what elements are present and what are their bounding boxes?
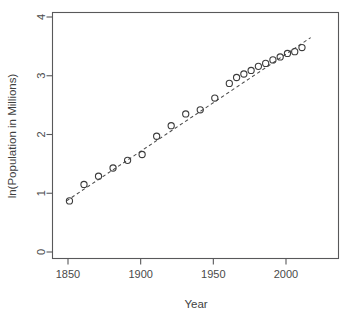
y-tick-label: 3 [35,73,47,79]
x-tick-label: 1850 [56,268,80,280]
scatter-plot: 1850190019502000 01234 Year ln(Populatio… [0,0,351,319]
chart-container: 1850190019502000 01234 Year ln(Populatio… [0,0,351,319]
x-axis-title: Year [184,298,207,310]
y-axis-title: ln(Population in Millions) [6,74,18,199]
x-tick-label: 1950 [201,268,225,280]
y-tick-label: 2 [35,131,47,137]
y-tick-label: 0 [35,249,47,255]
x-tick-label: 1900 [128,268,152,280]
y-tick-label: 4 [35,14,47,20]
y-tick-label: 1 [35,190,47,196]
x-tick-label: 2000 [274,268,298,280]
